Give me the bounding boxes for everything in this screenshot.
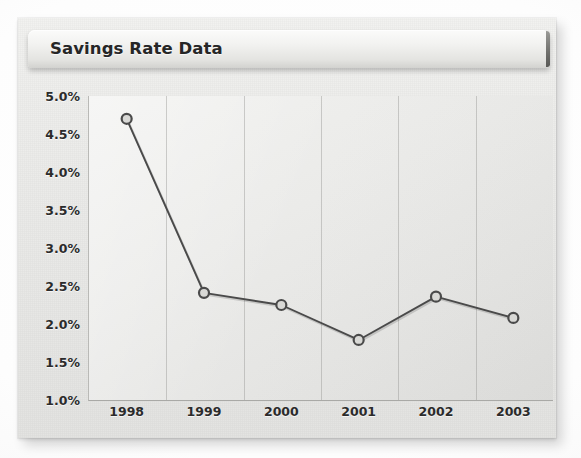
data-point-marker[interactable]: 1999: 2.41% (199, 288, 209, 298)
line-series-layer: 1998: 4.7%1999: 2.41%2000: 2.25%2001: 1.… (88, 96, 552, 400)
y-axis-tick-label: 4.5% (28, 127, 80, 142)
y-axis-tick-label: 1.0% (28, 393, 80, 408)
y-axis-tick-labels: 5.0%4.5%4.0%3.5%3.0%2.5%2.0%1.5%1.0% (18, 90, 80, 406)
data-point-marker[interactable]: 2002: 2.36% (431, 292, 441, 302)
data-point-marker[interactable]: 1998: 4.7% (122, 114, 132, 124)
data-point-marker[interactable]: 2001: 1.79% (354, 335, 364, 345)
x-axis-tick-label: 2003 (496, 404, 531, 419)
x-axis-tick-label: 2002 (419, 404, 454, 419)
y-axis-tick-label: 1.5% (28, 355, 80, 370)
y-axis-tick-label: 2.5% (28, 279, 80, 294)
x-axis-tick-label: 1999 (187, 404, 222, 419)
series-line (127, 119, 514, 340)
x-axis-tick-labels: 199819992000200120022003 (88, 404, 552, 430)
chart-title-banner: Savings Rate Data (28, 30, 550, 68)
data-point-marker[interactable]: 2000: 2.25% (276, 300, 286, 310)
x-axis-tick-label: 1998 (109, 404, 144, 419)
y-axis-tick-label: 5.0% (28, 89, 80, 104)
y-axis-tick-label: 3.5% (28, 203, 80, 218)
page-title: Savings Rate Data (50, 39, 223, 58)
x-axis-tick-label: 2001 (341, 404, 376, 419)
page-background: Savings Rate Data 5.0%4.5%4.0%3.5%3.0%2.… (0, 0, 581, 458)
x-axis-tick-label: 2000 (264, 404, 299, 419)
plot-wrapper: 1998: 4.7%1999: 2.41%2000: 2.25%2001: 1.… (88, 90, 552, 424)
y-axis-tick-label: 3.0% (28, 241, 80, 256)
y-axis-tick-label: 2.0% (28, 317, 80, 332)
y-axis-tick-label: 4.0% (28, 165, 80, 180)
series-line-shadow (128, 120, 515, 341)
chart-card: Savings Rate Data 5.0%4.5%4.0%3.5%3.0%2.… (18, 18, 556, 438)
data-point-marker[interactable]: 2003: 2.08% (508, 313, 518, 323)
